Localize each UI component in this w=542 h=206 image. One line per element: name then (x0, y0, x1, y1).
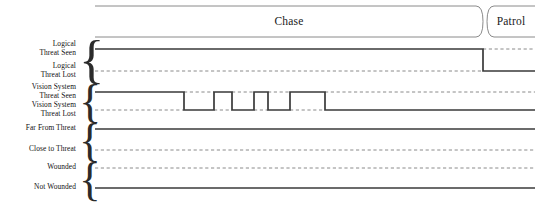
signal-active-trace (95, 92, 535, 110)
timing-diagram: ChasePatrol LogicalThreat SeenLogicalThr… (0, 0, 542, 206)
signal-threat-distance (95, 129, 535, 150)
signal-wounded-state (95, 168, 535, 188)
signal-logical-threat (95, 49, 535, 71)
waveform-layer (0, 0, 542, 206)
signal-active-trace (95, 49, 535, 71)
signal-vision-system-threat (95, 92, 535, 110)
